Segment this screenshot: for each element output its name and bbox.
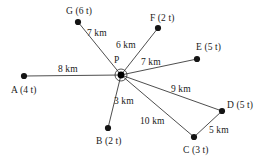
edge-label-p-a: 8 km (58, 64, 78, 74)
edge-label-p-g: 7 km (87, 28, 107, 38)
node-a[interactable] (21, 73, 27, 79)
node-f[interactable] (155, 25, 161, 31)
edge-label-p-f: 6 km (116, 40, 136, 50)
node-layer (21, 19, 225, 140)
node-label-g: G (6 t) (66, 6, 92, 16)
node-p[interactable] (118, 72, 125, 79)
node-label-f: F (2 t) (150, 13, 174, 23)
node-c[interactable] (191, 134, 197, 140)
graph-canvas (0, 0, 262, 161)
node-label-b: B (2 t) (96, 136, 122, 146)
node-label-d: D (5 t) (227, 100, 253, 110)
node-label-a: A (4 t) (11, 85, 37, 95)
edge-label-p-b: 3 km (114, 96, 134, 106)
node-e[interactable] (194, 56, 200, 62)
edge-label-p-c: 10 km (140, 116, 165, 126)
node-label-c: C (3 t) (183, 145, 209, 155)
node-label-e: E (5 t) (196, 42, 221, 52)
edge-label-p-d: 9 km (171, 84, 191, 94)
edge-label-p-e: 7 km (141, 57, 161, 67)
node-g[interactable] (75, 19, 81, 25)
node-label-p: P (114, 55, 119, 65)
network-diagram: PA (4 t)B (2 t)C (3 t)D (5 t)E (5 t)F (2… (0, 0, 262, 161)
edge-p-a (24, 75, 121, 76)
node-b[interactable] (105, 125, 111, 131)
edge-label-c-d: 5 km (209, 125, 229, 135)
node-d[interactable] (219, 108, 225, 114)
